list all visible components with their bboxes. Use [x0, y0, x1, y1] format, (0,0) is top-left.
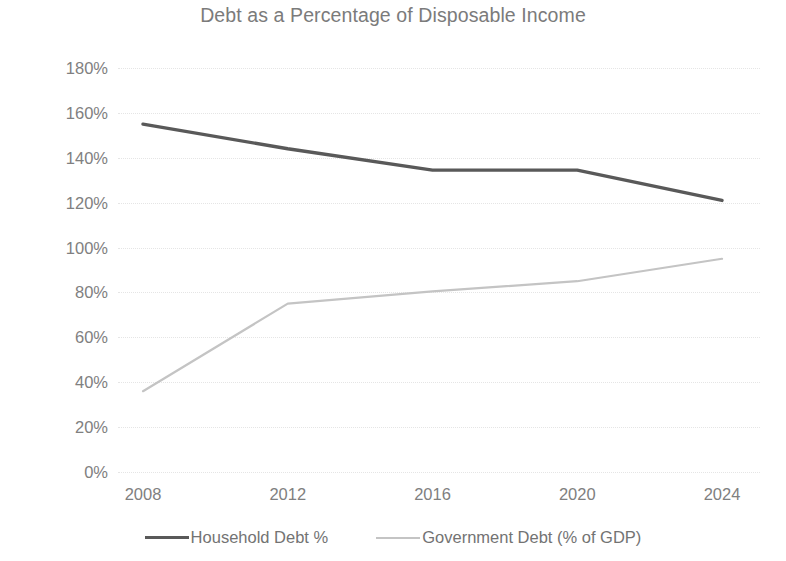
- x-axis-tick-label: 2008: [125, 485, 162, 504]
- legend-label: Household Debt %: [191, 528, 329, 547]
- y-axis-tick-label: 120%: [0, 193, 108, 212]
- y-axis-tick-label: 60%: [0, 328, 108, 347]
- legend-line-icon: [376, 537, 420, 539]
- x-axis-tick-label: 2020: [559, 485, 596, 504]
- y-axis-tick-label: 80%: [0, 283, 108, 302]
- legend-line-icon: [145, 536, 189, 539]
- x-axis-tick-label: 2024: [704, 485, 741, 504]
- x-axis-tick-label: 2012: [269, 485, 306, 504]
- legend-item[interactable]: Household Debt %: [145, 528, 329, 547]
- y-axis-tick-label: 40%: [0, 373, 108, 392]
- y-axis-tick-label: 140%: [0, 148, 108, 167]
- y-axis: 180%160%140%120%100%80%60%40%20%0%: [0, 68, 108, 472]
- legend-label: Government Debt (% of GDP): [422, 528, 641, 547]
- y-axis-tick-label: 160%: [0, 103, 108, 122]
- gridline: [118, 472, 760, 474]
- series-line: [143, 259, 722, 391]
- series-lines: [118, 68, 760, 472]
- y-axis-tick-label: 20%: [0, 418, 108, 437]
- y-axis-tick-label: 0%: [0, 463, 108, 482]
- chart-title: Debt as a Percentage of Disposable Incom…: [0, 4, 786, 27]
- x-axis: 20082012201620202024: [118, 485, 760, 511]
- x-axis-tick-label: 2016: [414, 485, 451, 504]
- chart-container: Debt as a Percentage of Disposable Incom…: [0, 0, 786, 561]
- plot-area: [118, 68, 760, 472]
- y-axis-tick-label: 100%: [0, 238, 108, 257]
- y-axis-tick-label: 180%: [0, 59, 108, 78]
- chart-legend: Household Debt %Government Debt (% of GD…: [0, 528, 786, 547]
- series-line: [143, 124, 722, 200]
- legend-item[interactable]: Government Debt (% of GDP): [376, 528, 641, 547]
